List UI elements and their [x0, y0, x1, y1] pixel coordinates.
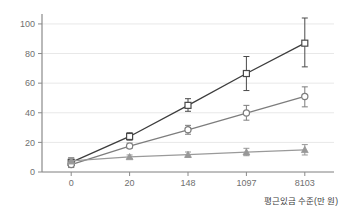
y-tick-label: 40	[25, 108, 35, 118]
marker-square	[302, 40, 308, 46]
marker-circle	[302, 93, 308, 99]
marker-circle	[127, 143, 133, 149]
x-tick-group: 02014810978103	[69, 172, 315, 188]
series-layer	[68, 18, 308, 168]
series-square	[68, 18, 308, 167]
chart-screenshot: • • • • • 020406080100 02014810978103 평근…	[0, 0, 343, 211]
y-tick-group: 020406080100	[20, 19, 42, 177]
y-tick-label: 0	[30, 167, 35, 177]
x-tick-label: 0	[69, 178, 74, 188]
marker-square	[185, 102, 191, 108]
x-tick-label: 148	[180, 178, 195, 188]
x-tick-label: 1097	[236, 178, 256, 188]
marker-circle	[185, 127, 191, 133]
marker-circle	[243, 110, 249, 116]
y-tick-label: 20	[25, 138, 35, 148]
chart-canvas: 020406080100 02014810978103 평근있금 수준(만 원)	[0, 0, 343, 211]
y-tick-label: 80	[25, 49, 35, 59]
axes-group	[42, 14, 334, 172]
marker-square	[127, 133, 133, 139]
x-tick-label: 8103	[295, 178, 315, 188]
y-tick-label: 60	[25, 78, 35, 88]
marker-square	[243, 71, 249, 77]
y-tick-label: 100	[20, 19, 35, 29]
x-tick-label: 20	[125, 178, 135, 188]
x-axis-title: 평근있금 수준(만 원)	[264, 196, 339, 206]
